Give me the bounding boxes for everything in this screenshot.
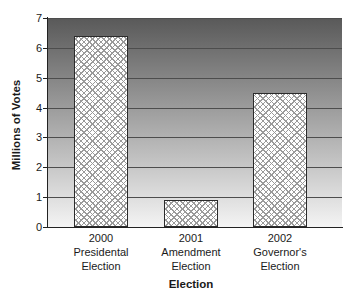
plot-area — [48, 18, 342, 227]
y-tick-label-2: 2 — [18, 160, 42, 174]
x-category-label-2001: 2001 Amendment Election — [143, 231, 239, 273]
gridline-7 — [48, 18, 342, 19]
y-tick-label-5: 5 — [18, 71, 42, 85]
y-tick-label-4: 4 — [18, 101, 42, 115]
bar-2000 — [74, 36, 128, 227]
y-tick-label-3: 3 — [18, 130, 42, 144]
bar-2002 — [253, 93, 307, 227]
y-tick-label-7: 7 — [18, 11, 42, 25]
x-axis-title: Election — [169, 278, 214, 290]
y-axis-title: Millions of Votes — [10, 80, 22, 171]
x-category-label-2002: 2002 Governor's Election — [232, 231, 328, 273]
y-tick-label-6: 6 — [18, 41, 42, 55]
x-category-label-2000: 2000 Presidental Election — [53, 231, 149, 273]
y-tick-label-1: 1 — [18, 190, 42, 204]
y-tick-label-0: 0 — [18, 220, 42, 234]
bar-2001 — [164, 200, 218, 227]
x-axis-line — [47, 227, 343, 228]
bar-chart-figure: Millions of Votes 01234567 2000 Presiden… — [0, 0, 353, 303]
